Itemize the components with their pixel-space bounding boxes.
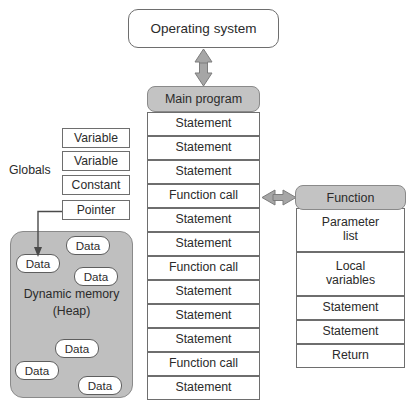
heap-data-block: Data xyxy=(15,361,59,380)
heap-data-block: Data xyxy=(55,339,99,358)
heap-label-line2: (Heap) xyxy=(10,303,133,320)
globals-item-constant: Constant xyxy=(62,175,130,195)
main-program-row: Statement xyxy=(147,232,260,256)
main-function-double-arrow-icon xyxy=(262,190,296,205)
main-program-row: Function call xyxy=(147,256,260,280)
heap-label: Dynamic memory (Heap) xyxy=(10,286,133,319)
main-program-header: Main program xyxy=(147,86,260,112)
function-header: Function xyxy=(295,185,406,210)
function-row: Return xyxy=(296,344,405,368)
globals-label: Globals xyxy=(9,163,59,177)
main-program-row: Statement xyxy=(147,376,260,400)
heap-data-block: Data xyxy=(16,254,60,273)
globals-item-pointer: Pointer xyxy=(62,200,130,220)
diagram-canvas: Operating system Main program StatementS… xyxy=(0,0,419,411)
main-program-row: Statement xyxy=(147,328,260,352)
main-program-row: Statement xyxy=(147,280,260,304)
heap-data-block: Data xyxy=(78,376,122,395)
globals-item-variable: Variable xyxy=(62,151,130,171)
main-program-row: Statement xyxy=(147,136,260,160)
heap-data-block: Data xyxy=(66,236,110,255)
function-row: Parameterlist xyxy=(296,208,405,252)
heap-data-block: Data xyxy=(74,267,118,286)
function-row: Localvariables xyxy=(296,252,405,296)
main-program-row: Statement xyxy=(147,112,260,136)
function-row: Statement xyxy=(296,320,405,344)
main-program-row: Statement xyxy=(147,208,260,232)
main-program-row: Statement xyxy=(147,304,260,328)
globals-item-variable: Variable xyxy=(62,128,130,148)
main-program-row: Statement xyxy=(147,160,260,184)
heap-label-line1: Dynamic memory xyxy=(10,286,133,303)
function-row: Statement xyxy=(296,296,405,320)
os-main-double-arrow-icon xyxy=(195,49,212,86)
main-program-row: Function call xyxy=(147,184,260,208)
main-program-row: Function call xyxy=(147,352,260,376)
operating-system-box: Operating system xyxy=(128,9,279,48)
